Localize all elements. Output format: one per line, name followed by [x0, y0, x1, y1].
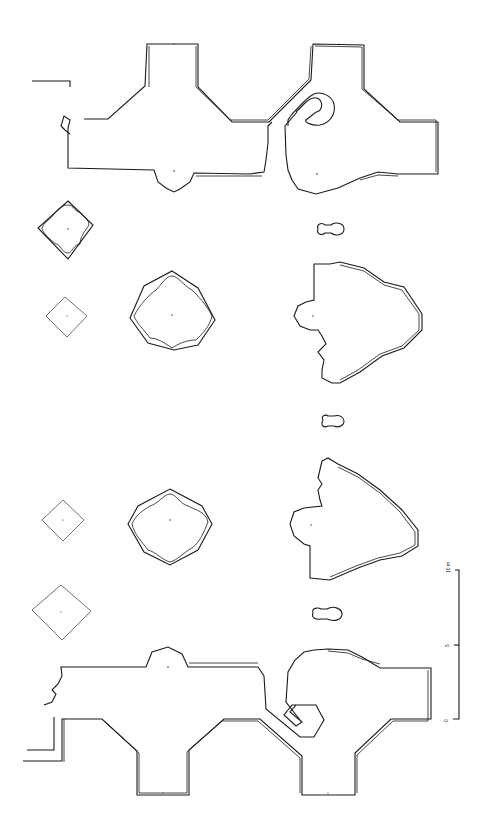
scale-label-10m: 10 m — [445, 562, 451, 573]
spiral-stair-north — [288, 93, 334, 126]
scale-bar: 0 5 10 m — [443, 562, 459, 722]
centre-marker — [67, 228, 68, 229]
apse-hall-1 — [294, 262, 422, 383]
keyhole-1 — [318, 223, 344, 235]
centre-marker — [316, 173, 318, 175]
centre-marker — [173, 43, 174, 44]
centre-marker — [167, 666, 169, 668]
floor-plan-drawing: 0 5 10 m — [0, 0, 484, 816]
keyhole-3 — [313, 607, 342, 620]
rotunda-1-inner — [134, 276, 212, 348]
rotunda-1-outer — [130, 271, 215, 350]
centre-marker — [312, 315, 313, 316]
row-2 — [38, 201, 344, 259]
centre-marker — [66, 315, 67, 316]
centre-marker — [62, 519, 63, 520]
row-6 — [32, 585, 342, 640]
row-5 — [42, 458, 418, 580]
south-wing-upper-wall — [189, 651, 380, 664]
centre-marker — [327, 792, 328, 793]
south-wing-lower-outline — [23, 649, 431, 795]
scale-label-5: 5 — [444, 644, 450, 647]
centre-marker — [60, 611, 61, 612]
rotunda-2-outer — [128, 489, 212, 565]
row-4 — [322, 415, 344, 427]
centre-marker — [338, 43, 339, 44]
south-wing-inner-wall — [64, 670, 428, 793]
north-building — [32, 43, 438, 194]
centre-marker — [173, 170, 175, 172]
centre-marker — [169, 519, 170, 520]
keyhole-2 — [322, 415, 344, 427]
south-wing-left-outline — [27, 647, 324, 750]
square-chamber-4 — [32, 585, 91, 640]
scale-label-0: 0 — [443, 719, 449, 722]
square-chamber-2 — [46, 297, 87, 337]
centre-marker — [162, 792, 163, 793]
south-building — [23, 647, 431, 795]
square-chamber-1-outer — [38, 201, 93, 259]
centre-marker — [310, 524, 311, 525]
north-wing-left-outline — [32, 44, 438, 194]
north-wing-inner-wall — [149, 46, 436, 172]
apse-hall-1-inner — [340, 265, 419, 380]
apse-hall-2-inner — [330, 467, 415, 577]
row-3 — [46, 262, 422, 383]
apse-hall-2 — [290, 458, 418, 580]
centre-marker — [171, 314, 172, 315]
square-chamber-1-inner — [42, 205, 89, 253]
